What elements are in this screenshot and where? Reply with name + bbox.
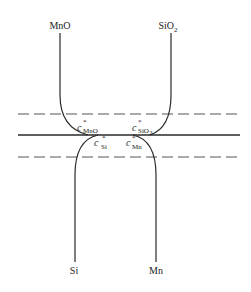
- svg-text:MnO: MnO: [83, 127, 98, 135]
- svg-text:c: c: [94, 137, 99, 148]
- conc-mno: c * MnO: [77, 118, 98, 135]
- mn-diffusion-curve: [133, 135, 156, 262]
- svg-text:*: *: [102, 134, 106, 142]
- svg-text:c: c: [77, 122, 82, 133]
- diagram-canvas: MnO SiO2 Si Mn c * MnO c * SiO2 c * Si c…: [0, 0, 251, 292]
- interface-diffusion-diagram: MnO SiO2 Si Mn c * MnO c * SiO2 c * Si c…: [0, 0, 251, 292]
- si-diffusion-curve: [75, 135, 98, 262]
- label-mn: Mn: [149, 265, 163, 276]
- sio2-diffusion-curve: [150, 33, 171, 135]
- svg-text:Mn: Mn: [132, 143, 142, 151]
- label-sio2: SiO2: [158, 20, 178, 34]
- conc-mn: c * Mn: [126, 134, 142, 151]
- svg-text:*: *: [138, 118, 142, 126]
- svg-text:Si: Si: [101, 143, 107, 151]
- svg-text:c: c: [126, 137, 131, 148]
- svg-text:*: *: [132, 134, 136, 142]
- label-si: Si: [70, 265, 79, 276]
- label-mno: MnO: [49, 20, 70, 31]
- svg-text:c: c: [132, 122, 137, 133]
- conc-si: c * Si: [94, 134, 107, 151]
- svg-text:*: *: [83, 118, 87, 126]
